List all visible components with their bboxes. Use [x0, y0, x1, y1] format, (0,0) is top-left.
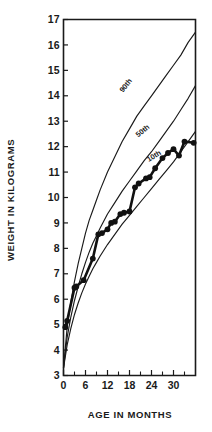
- y-tick-label: 12: [48, 140, 60, 152]
- y-axis-title: WEIGHT IN KILOGRAMS: [5, 139, 16, 261]
- y-tick-label: 9: [54, 217, 60, 229]
- y-tick-label: 16: [48, 39, 60, 51]
- x-tick-label: 30: [168, 379, 180, 391]
- subject-data-point: [171, 146, 177, 152]
- subject-data-point: [62, 324, 68, 330]
- subject-data-point: [121, 210, 127, 216]
- subject-data-point: [152, 165, 158, 171]
- subject-data-point: [81, 277, 87, 283]
- x-tick-label: 24: [146, 379, 158, 391]
- curve-label-90th: 90th: [117, 76, 134, 94]
- axis-frame: [64, 20, 196, 376]
- y-tick-label: 3: [54, 369, 60, 381]
- y-tick-label: 10: [48, 191, 60, 203]
- percentile-curve-10th: [64, 131, 196, 367]
- chart-canvas: 34567891011121314151617 0612182430 90th5…: [0, 0, 212, 432]
- y-tick-label: 7: [54, 267, 60, 279]
- x-tick-label: 12: [102, 379, 114, 391]
- x-tick-label: 6: [83, 379, 89, 391]
- subject-growth-series: [62, 139, 196, 330]
- subject-data-point: [182, 139, 188, 145]
- x-axis-title: AGE IN MONTHS: [88, 409, 172, 420]
- growth-chart: 34567891011121314151617 0612182430 90th5…: [0, 0, 212, 432]
- subject-data-point: [127, 209, 133, 215]
- subject-data-point: [176, 153, 182, 159]
- subject-data-point: [99, 230, 105, 236]
- curve-label-50th: 50th: [134, 122, 152, 139]
- y-tick-label: 5: [54, 318, 60, 330]
- y-tick-label: 6: [54, 293, 60, 305]
- subject-data-point: [165, 150, 171, 156]
- y-tick-label: 4: [54, 344, 60, 356]
- x-tick-label: 18: [124, 379, 136, 391]
- y-tick-label: 11: [48, 166, 59, 178]
- y-axis-tick-labels: 34567891011121314151617: [48, 13, 60, 381]
- subject-data-point: [191, 140, 197, 146]
- subject-data-point: [112, 219, 118, 225]
- y-tick-label: 8: [54, 242, 60, 254]
- x-axis-ticks: [64, 370, 185, 376]
- subject-trend-line: [65, 142, 193, 328]
- x-axis-tick-labels: 0612182430: [61, 379, 180, 391]
- subject-data-point: [64, 318, 70, 324]
- x-tick-label: 0: [61, 379, 67, 391]
- y-tick-label: 15: [48, 64, 60, 76]
- y-tick-label: 14: [48, 89, 60, 101]
- subject-data-point: [147, 174, 153, 180]
- subject-data-point: [90, 256, 96, 262]
- subject-data-point: [136, 181, 142, 187]
- y-tick-label: 17: [48, 13, 60, 25]
- subject-data-point: [73, 284, 79, 290]
- subject-data-point: [105, 226, 111, 232]
- plot-frame: [64, 20, 196, 376]
- y-tick-label: 13: [48, 115, 60, 127]
